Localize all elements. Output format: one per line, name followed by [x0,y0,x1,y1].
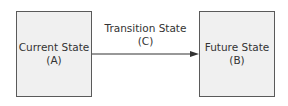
future-state-code: (B) [229,54,244,67]
future-state-box: Future State (B) [199,11,275,97]
future-state-title: Future State [205,41,270,54]
